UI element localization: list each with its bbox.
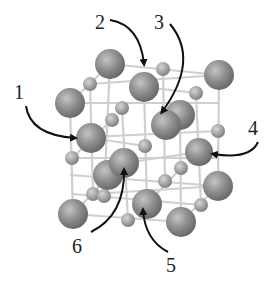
large-ion-sphere <box>151 110 181 140</box>
label-5: 5 <box>166 255 176 275</box>
large-ion-sphere <box>166 207 196 237</box>
small-ion-sphere <box>138 139 152 153</box>
large-ion-sphere <box>185 138 213 166</box>
large-ion-sphere <box>132 189 162 219</box>
small-ion-sphere <box>194 198 208 212</box>
label-4: 4 <box>248 118 258 138</box>
small-ion-sphere <box>97 189 111 203</box>
small-ion-sphere <box>189 86 203 100</box>
large-ion-sphere <box>129 72 159 102</box>
large-ion-sphere <box>204 60 234 90</box>
small-ion-sphere <box>83 77 97 91</box>
label-2: 2 <box>95 12 105 32</box>
small-ion-sphere <box>65 151 79 165</box>
small-ion-sphere <box>115 101 129 115</box>
label-3: 3 <box>154 12 164 32</box>
large-ion-sphere <box>55 88 85 118</box>
crystal-lattice-diagram <box>0 0 278 286</box>
small-ion-sphere <box>158 174 172 188</box>
small-ion-sphere <box>105 113 119 127</box>
small-ion-sphere <box>174 161 188 175</box>
large-ion-sphere <box>95 49 125 79</box>
large-ion-sphere <box>76 123 106 153</box>
large-ion-sphere <box>58 199 88 229</box>
small-ion-sphere <box>121 213 135 227</box>
label-6: 6 <box>72 236 82 256</box>
small-ion-sphere <box>156 62 170 76</box>
large-ion-sphere <box>203 171 233 201</box>
small-ion-sphere <box>211 124 225 138</box>
arrow-4-icon <box>213 142 258 156</box>
label-1: 1 <box>14 82 24 102</box>
